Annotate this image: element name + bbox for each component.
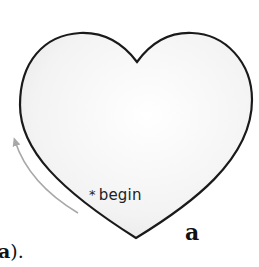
- panel-label: a: [185, 219, 199, 245]
- caption-fragment: a).: [0, 240, 24, 262]
- start-marker-icon: *: [89, 187, 96, 202]
- heart-drawing: [0, 0, 259, 267]
- begin-text: begin: [99, 186, 142, 204]
- caption-bold: a: [0, 240, 10, 262]
- heart-outline: [20, 33, 252, 238]
- caption-trailing: ).: [10, 240, 23, 262]
- heart-figure: *begin a a).: [0, 0, 259, 267]
- begin-label: *begin: [89, 186, 142, 204]
